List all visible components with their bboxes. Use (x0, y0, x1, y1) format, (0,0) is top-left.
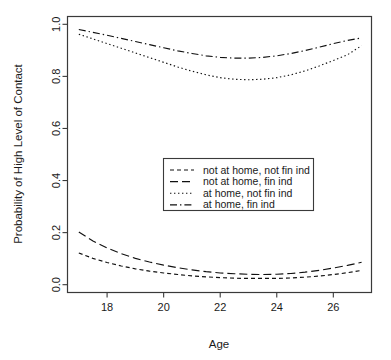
x-tick-label: 18 (101, 301, 113, 313)
x-tick-label: 22 (214, 301, 226, 313)
y-tick-label: 0.4 (51, 173, 63, 188)
x-axis-tick-labels: 1820222426 (101, 301, 339, 313)
series-line (79, 30, 362, 59)
data-series-group (79, 30, 362, 279)
plot-canvas: 0.00.20.40.60.81.0 1820222426 Age Probab… (0, 0, 391, 360)
chart-figure: 0.00.20.40.60.81.0 1820222426 Age Probab… (0, 0, 391, 360)
y-axis-tick-labels: 0.00.20.40.60.81.0 (51, 17, 63, 293)
x-axis-title: Age (209, 338, 229, 350)
y-tick-label: 0.6 (51, 121, 63, 136)
legend-label: at home, not fin ind (203, 187, 292, 199)
x-axis-ticks (107, 293, 333, 298)
y-axis-ticks (63, 24, 68, 284)
y-tick-label: 1.0 (51, 17, 63, 32)
legend: not at home, not fin indnot at home, fin… (164, 159, 314, 211)
series-line (79, 232, 362, 274)
plot-frame (68, 17, 372, 293)
y-tick-label: 0.8 (51, 69, 63, 84)
legend-label: at home, fin ind (203, 198, 275, 210)
legend-label: not at home, not fin ind (203, 164, 310, 176)
y-axis-title: Probability of High Level of Contact (12, 63, 24, 243)
x-tick-label: 20 (158, 301, 170, 313)
y-tick-label: 0.2 (51, 225, 63, 240)
x-tick-label: 24 (271, 301, 283, 313)
y-tick-label: 0.0 (51, 277, 63, 292)
series-line (79, 253, 362, 279)
legend-label: not at home, fin ind (203, 175, 292, 187)
x-tick-label: 26 (327, 301, 339, 313)
